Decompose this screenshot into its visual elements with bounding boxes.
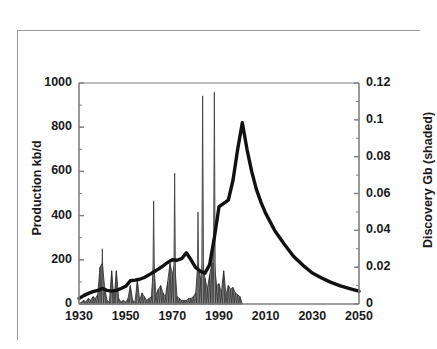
y-tick-left-400: 400	[17, 208, 72, 222]
x-tick-2050: 2050	[334, 309, 384, 323]
y-tick-left-200: 200	[17, 252, 72, 266]
y-axis-label-left: Production kb/d	[30, 113, 44, 263]
chart-frame: Colombia Production kb/d Discovery Gb (s…	[17, 30, 420, 340]
x-tick-1930: 1930	[54, 309, 104, 323]
x-tick-1990: 1990	[194, 309, 244, 323]
x-tick-1950: 1950	[101, 309, 151, 323]
y-tick-right-0.08: 0.08	[366, 149, 411, 163]
x-tick-2030: 2030	[287, 309, 337, 323]
y-tick-right-0.04: 0.04	[366, 222, 411, 236]
y-tick-left-800: 800	[17, 119, 72, 133]
y-tick-right-0: 0	[366, 296, 411, 310]
chart-figure: Colombia Production kb/d Discovery Gb (s…	[0, 0, 437, 349]
plot-area	[18, 31, 421, 341]
y-tick-left-0: 0	[17, 296, 72, 310]
y-tick-right-0.12: 0.12	[366, 75, 411, 89]
x-tick-1970: 1970	[147, 309, 197, 323]
y-tick-right-0.06: 0.06	[366, 186, 411, 200]
y-tick-left-600: 600	[17, 163, 72, 177]
y-tick-right-0.02: 0.02	[366, 259, 411, 273]
y-tick-right-0.1: 0.1	[366, 112, 411, 126]
y-axis-label-right: Discovery Gb (shaded)	[421, 100, 435, 260]
y-tick-left-1000: 1000	[17, 75, 72, 89]
x-tick-2010: 2010	[241, 309, 291, 323]
